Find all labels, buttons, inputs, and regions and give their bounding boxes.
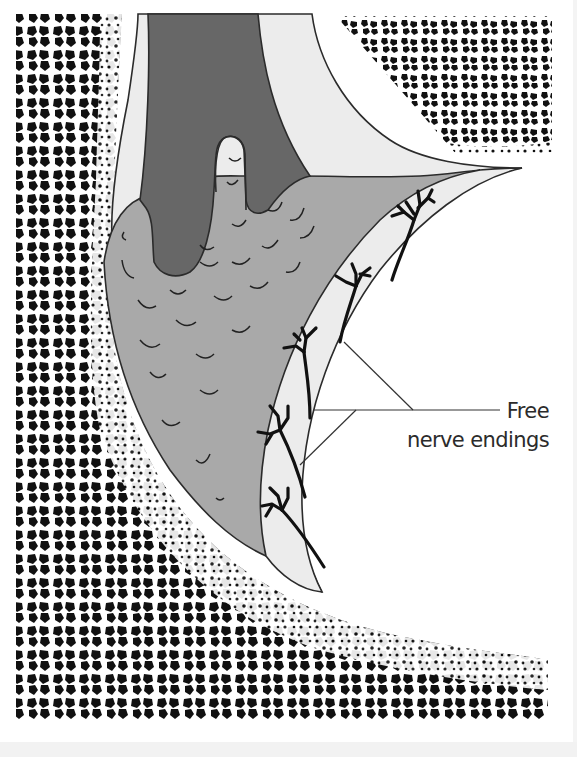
joint-nerve-diagram: Free nerve endings (0, 0, 577, 757)
page-edge-right (573, 0, 577, 742)
label-line-2: nerve endings (407, 428, 549, 452)
label-line-1: Free (507, 399, 549, 423)
page-edge-bottom (0, 742, 577, 757)
